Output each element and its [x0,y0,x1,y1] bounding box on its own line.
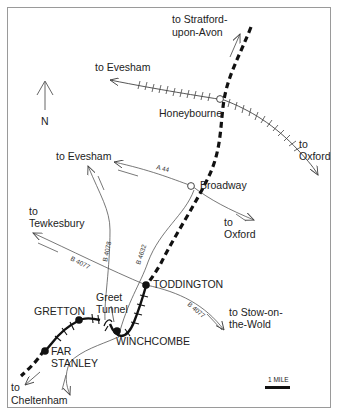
dest-stow-line2: the-Wold [229,318,271,330]
dest-evesham-road: to Evesham [56,150,112,162]
dest-tewkesbury-line2: Tewkesbury [29,217,85,229]
town-broadway: Broadway [200,179,247,191]
station-gretton-marker[interactable] [75,316,83,324]
feature-greet-tunnel-line2: Tunnel [96,303,128,315]
station-honeybourne-marker[interactable] [217,96,224,103]
station-far-stanley-line2: STANLEY [51,357,98,369]
scale-bar-label: 1 MILE [268,376,289,383]
station-gretton-label: GRETTON [34,305,85,317]
station-toddington-label: TODDINGTON [153,278,223,290]
station-broadway-marker[interactable] [188,183,195,190]
town-honeybourne: Honeybourne [159,107,222,119]
station-winchcombe-label: WINCHCOMBE [116,335,190,347]
dest-tewkesbury-line1: to [29,205,38,217]
station-winchcombe-marker[interactable] [113,327,121,335]
dest-oxford-road-line2: Oxford [224,228,256,240]
north-label: N [41,115,49,127]
dest-stratford-line1: to Stratford- [172,13,228,25]
dest-oxford-road-line1: to [224,216,233,228]
dest-oxford-rail-line1: to [299,138,308,150]
dest-stratford-line2: upon-Avon [172,26,223,38]
scale-bar [265,386,290,389]
dest-cheltenham-line1: to [11,381,20,393]
feature-greet-tunnel-line1: Greet [96,291,122,303]
dest-cheltenham-line2: Cheltenham [11,394,68,406]
dest-oxford-rail-line2: Oxford [299,150,331,162]
dest-stow-line1: to Stow-on- [229,306,283,318]
station-toddington-marker[interactable] [142,281,150,289]
station-far-stanley-line1: FAR [51,345,72,357]
dest-evesham-rail: to Evesham [95,61,151,73]
railway-route-map: N A 44 B 4078 B 4632 B 4077 B 4077 [0,0,341,416]
station-far-stanley-marker[interactable] [41,347,49,355]
